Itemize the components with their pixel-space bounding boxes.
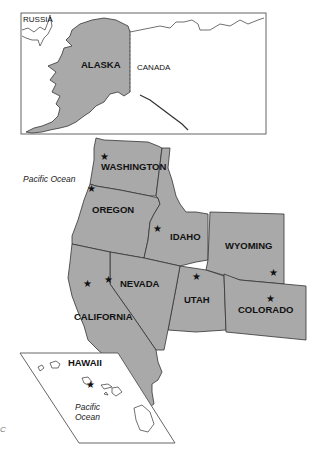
utah-label: UTAH [184,294,210,305]
utah-capital-star-icon: ★ [192,271,201,282]
hawaii-ocean-label-line1: Pacific [75,402,101,412]
hawaii-capital-star-icon: ★ [86,379,95,390]
california-label: CALIFORNIA [74,311,133,322]
colorado-label: COLORADO [238,304,293,315]
oregon-label: OREGON [92,204,134,215]
canada-label: CANADA [137,63,171,72]
wyoming-capital-star-icon: ★ [269,267,278,278]
nevada-label: NEVADA [120,278,160,289]
alaska-label: ALASKA [81,59,121,70]
hawaii-ocean-label-line2: Ocean [75,412,100,422]
nevada-capital-star-icon: ★ [104,274,113,285]
alaska-inset: RUSSIA CANADA ALASKA [21,13,266,134]
washington-label: WASHINGTON [101,161,166,172]
pacific-ocean-label: Pacific Ocean [23,174,76,184]
california-capital-star-icon: ★ [83,278,92,289]
wyoming-label: WYOMING [225,240,273,251]
russia-label: RUSSIA [23,15,53,24]
colorado-capital-star-icon: ★ [266,293,275,304]
hawaii-label: HAWAII [68,357,102,368]
washington-capital-star-icon: ★ [100,151,109,162]
idaho-label: IDAHO [170,231,201,242]
western-us-map: RUSSIA CANADA ALASKA WASHINGTON OREGON I… [0,0,315,461]
margin-mark: C [0,425,6,434]
idaho-capital-star-icon: ★ [153,223,162,234]
oregon-capital-star-icon: ★ [87,183,96,194]
